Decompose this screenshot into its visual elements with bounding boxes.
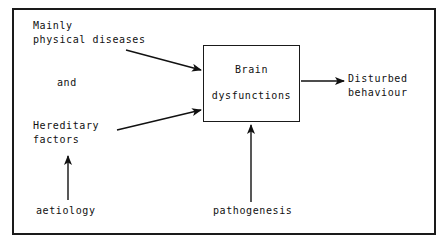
node-brain-dysfunctions-line1: Brain <box>204 64 299 75</box>
node-disturbed-behaviour-line2: behaviour <box>348 87 408 98</box>
node-physical-diseases-line1: Mainly <box>33 20 73 31</box>
arrow-hereditary-to-brain <box>117 110 201 130</box>
node-brain-dysfunctions-box: Brain dysfunctions <box>203 45 300 122</box>
node-disturbed-behaviour-line1: Disturbed <box>348 73 408 84</box>
diagram-canvas: Mainly physical diseases and Hereditary … <box>0 0 448 248</box>
node-hereditary-factors: Hereditary factors <box>33 119 99 147</box>
node-pathogenesis: pathogenesis <box>213 204 292 218</box>
node-hereditary-factors-line1: Hereditary <box>33 120 99 131</box>
node-disturbed-behaviour: Disturbed behaviour <box>348 72 408 100</box>
node-brain-dysfunctions-line2: dysfunctions <box>204 90 299 101</box>
node-physical-diseases: Mainly physical diseases <box>33 19 146 47</box>
node-hereditary-factors-line2: factors <box>33 134 79 145</box>
node-conjunction-and-text: and <box>57 77 77 88</box>
node-conjunction-and: and <box>57 76 77 90</box>
node-pathogenesis-text: pathogenesis <box>213 205 292 216</box>
node-aetiology-text: aetiology <box>36 205 96 216</box>
node-aetiology: aetiology <box>36 204 96 218</box>
node-physical-diseases-line2: physical diseases <box>33 34 146 45</box>
arrow-physical-to-brain <box>126 50 201 70</box>
